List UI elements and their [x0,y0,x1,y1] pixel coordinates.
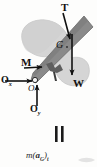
pivot-point-O [32,77,37,82]
force-label-Ox-subscript: x [9,80,12,87]
moment-label-M: M [21,57,31,68]
force-label-Ox: Ox [1,75,12,87]
force-label-Oy-subscript: y [38,109,41,116]
force-label-Ox-base: O [1,74,9,85]
kinetic-component-subscript: t [47,156,49,162]
force-label-T: T [61,2,68,13]
point-label-G: G [56,40,63,50]
equals-sign [55,126,64,142]
center-of-gravity-marker [66,46,68,48]
point-label-O: O [28,84,35,93]
free-body-kinetic-diagram-figure: T G W M Ox O Oy m(aG)t [0,0,97,167]
force-label-W: W [73,78,84,89]
force-label-Oy: Oy [30,104,41,116]
force-label-Oy-base: O [30,103,38,114]
cropped-next-figure [78,158,95,163]
kinetic-diagram-expression: m(aG)t [26,151,49,162]
